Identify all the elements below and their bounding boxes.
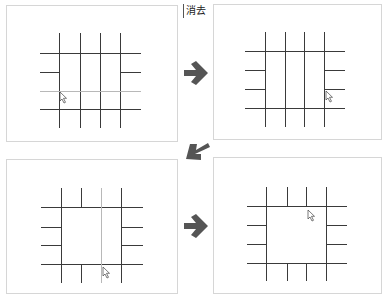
mouse-cursor-icon bbox=[60, 92, 67, 103]
mouse-cursor-icon bbox=[308, 210, 315, 221]
arrow-right-icon bbox=[181, 60, 211, 86]
arrow-down-left-icon bbox=[184, 140, 212, 162]
mouse-cursor-icon bbox=[326, 91, 333, 102]
mouse-cursor-icon bbox=[103, 267, 110, 278]
arrow-right-icon bbox=[181, 213, 211, 239]
